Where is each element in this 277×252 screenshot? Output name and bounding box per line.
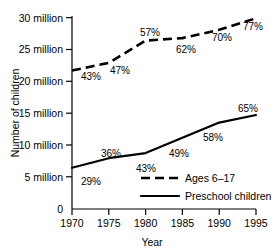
point-labels-ages-6-17: 43% 47% 57% 62% 70% 77% — [81, 21, 263, 82]
y-tick-label-15m: 15 million — [19, 107, 64, 119]
legend-label-preschool-children: Preschool children — [185, 190, 272, 202]
chart-legend: Ages 6–17 Preschool children — [141, 172, 272, 202]
y-axis-ticks — [66, 18, 72, 177]
x-tick-label-1985: 1985 — [171, 217, 195, 229]
point-label: 43% — [136, 163, 156, 174]
y-tick-label-25m: 25 million — [19, 43, 64, 55]
chart-page: 30 million 25 million 20 million 15 mill… — [0, 0, 277, 252]
point-label: 58% — [203, 132, 223, 143]
x-axis-tick-labels: 1970 1975 1980 1985 1990 1995 — [60, 217, 268, 229]
legend-label-ages-6-17: Ages 6–17 — [185, 172, 235, 184]
point-label: 29% — [81, 176, 101, 187]
point-label: 57% — [140, 27, 160, 38]
point-label: 43% — [81, 71, 101, 82]
point-label: 49% — [169, 148, 189, 159]
series-line-preschool-children — [72, 115, 256, 168]
point-label: 62% — [176, 44, 196, 55]
y-tick-label-0: 0 — [57, 203, 63, 215]
y-tick-label-5m: 5 million — [24, 171, 63, 183]
y-axis-title: Number of children — [9, 68, 21, 157]
x-axis-ticks — [72, 209, 256, 215]
point-label: 65% — [238, 103, 258, 114]
line-chart: 30 million 25 million 20 million 15 mill… — [0, 0, 277, 252]
point-label: 47% — [110, 65, 130, 76]
y-tick-label-10m: 10 million — [19, 139, 64, 151]
x-tick-label-1970: 1970 — [60, 217, 84, 229]
y-axis-tick-labels: 30 million 25 million 20 million 15 mill… — [19, 12, 64, 215]
y-tick-label-20m: 20 million — [19, 75, 64, 87]
x-axis-title: Year — [141, 236, 163, 248]
point-label: 77% — [243, 21, 263, 32]
x-tick-label-1990: 1990 — [208, 217, 232, 229]
x-tick-label-1995: 1995 — [244, 217, 268, 229]
point-label: 36% — [101, 148, 121, 159]
series-line-ages-6-17 — [72, 18, 256, 70]
y-tick-label-30m: 30 million — [19, 12, 64, 24]
x-tick-label-1980: 1980 — [134, 217, 158, 229]
x-tick-label-1975: 1975 — [97, 217, 121, 229]
point-label: 70% — [212, 32, 232, 43]
